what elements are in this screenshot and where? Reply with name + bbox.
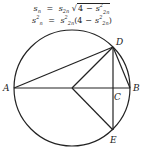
radius-OD (72, 47, 113, 88)
label-E: E (109, 135, 117, 145)
label-D: D (115, 37, 123, 47)
segment-AD (14, 47, 113, 88)
segment-DB (113, 47, 130, 88)
geometry-diagram: A B C D E (0, 0, 144, 148)
label-B: B (132, 83, 140, 93)
label-A: A (2, 83, 10, 93)
label-C: C (114, 92, 121, 102)
radius-OE (72, 88, 113, 130)
